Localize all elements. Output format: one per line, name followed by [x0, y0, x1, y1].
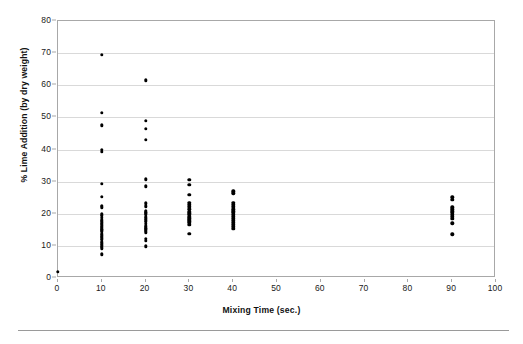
x-axis-tick-label: 10 — [96, 283, 106, 293]
data-point — [100, 247, 103, 250]
y-axis-title: % Lime Addition (by dry weight) — [19, 15, 29, 215]
x-axis-tick-mark — [364, 279, 365, 282]
data-point — [100, 111, 103, 114]
x-axis-tick-mark — [57, 279, 58, 282]
data-point — [188, 232, 191, 235]
data-point — [188, 178, 191, 181]
data-point — [100, 53, 103, 56]
x-axis-title: Mixing Time (sec.) — [0, 305, 523, 315]
x-axis-tick-label: 80 — [403, 283, 413, 293]
y-axis-tick-mark — [52, 180, 56, 181]
data-point — [144, 127, 147, 130]
x-axis-tick-mark — [276, 279, 277, 282]
y-axis-tick-mark — [52, 52, 56, 53]
x-axis-tick-label: 90 — [446, 283, 456, 293]
data-point — [188, 183, 191, 186]
data-point — [56, 270, 59, 273]
data-point — [100, 195, 103, 198]
plot-area — [57, 20, 495, 277]
x-axis-tick-mark — [451, 279, 452, 282]
x-axis-tick-labels: 0102030405060708090100 — [57, 279, 495, 295]
data-point — [100, 124, 103, 127]
y-axis-tick-mark — [52, 212, 56, 213]
data-point — [144, 119, 147, 122]
x-axis-tick-label: 20 — [140, 283, 150, 293]
x-axis-tick-label: 0 — [55, 283, 60, 293]
x-axis-tick-label: 50 — [271, 283, 281, 293]
x-axis-tick-mark — [407, 279, 408, 282]
x-axis-tick-label: 100 — [488, 283, 502, 293]
data-point — [144, 138, 147, 141]
y-axis-tick-mark — [52, 148, 56, 149]
data-point — [100, 182, 103, 185]
y-axis-tick-mark — [52, 116, 56, 117]
footer-divider — [18, 330, 509, 331]
y-axis-tick-mark — [52, 20, 56, 21]
y-axis-tick-mark — [52, 277, 56, 278]
x-axis-tick-mark — [232, 279, 233, 282]
x-axis-tick-mark — [320, 279, 321, 282]
data-point — [144, 178, 147, 181]
y-axis-tick-label: 0 — [5, 272, 51, 282]
data-point — [450, 198, 453, 201]
x-axis-tick-label: 40 — [227, 283, 237, 293]
data-point — [188, 193, 191, 196]
data-point — [450, 233, 453, 236]
x-axis-tick-mark — [101, 279, 102, 282]
x-axis-tick-mark — [188, 279, 189, 282]
data-points-layer — [58, 21, 494, 276]
data-point — [144, 79, 147, 82]
x-axis-tick-mark — [495, 279, 496, 282]
data-point — [100, 150, 103, 153]
x-axis-tick-label: 30 — [184, 283, 194, 293]
data-point — [188, 223, 191, 226]
data-point — [144, 239, 147, 242]
data-point — [144, 185, 147, 188]
data-point — [100, 206, 103, 209]
data-point — [231, 191, 234, 194]
data-point — [144, 231, 147, 234]
data-point — [231, 227, 234, 230]
y-axis-tick-mark — [52, 84, 56, 85]
x-axis-tick-label: 60 — [315, 283, 325, 293]
data-point — [450, 222, 453, 225]
x-axis-tick-label: 70 — [359, 283, 369, 293]
data-point — [450, 217, 453, 220]
data-point — [100, 253, 103, 256]
data-point — [144, 244, 147, 247]
y-axis-tick-label: 10 — [5, 240, 51, 250]
x-axis-tick-mark — [145, 279, 146, 282]
y-axis-tick-mark — [52, 244, 56, 245]
data-point — [144, 205, 147, 208]
scatter-chart-figure: 01020304050607080 0102030405060708090100… — [0, 0, 523, 344]
